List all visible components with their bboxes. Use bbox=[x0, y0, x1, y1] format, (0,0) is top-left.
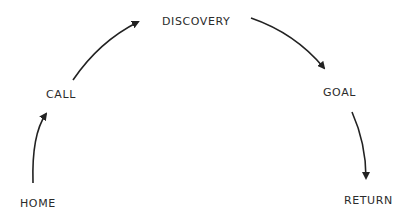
arrow-call-to-discovery bbox=[73, 22, 138, 80]
arrows-layer bbox=[0, 0, 410, 222]
flow-diagram: HOME CALL DISCOVERY GOAL RETURN bbox=[0, 0, 410, 222]
node-discovery: DISCOVERY bbox=[162, 16, 230, 27]
node-goal: GOAL bbox=[323, 87, 356, 98]
arrow-goal-to-return bbox=[352, 112, 366, 178]
node-return: RETURN bbox=[344, 195, 393, 206]
arrow-home-to-call bbox=[33, 114, 46, 183]
node-call: CALL bbox=[46, 89, 76, 100]
node-home: HOME bbox=[20, 198, 56, 209]
arrow-discovery-to-goal bbox=[251, 18, 324, 68]
